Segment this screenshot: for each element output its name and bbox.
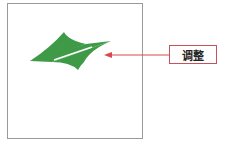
diagram-art [0,0,225,145]
adjust-label: 调整 [169,45,217,64]
arrow [104,52,169,58]
adjust-label-text: 调整 [182,47,204,63]
green-shape [30,32,111,70]
